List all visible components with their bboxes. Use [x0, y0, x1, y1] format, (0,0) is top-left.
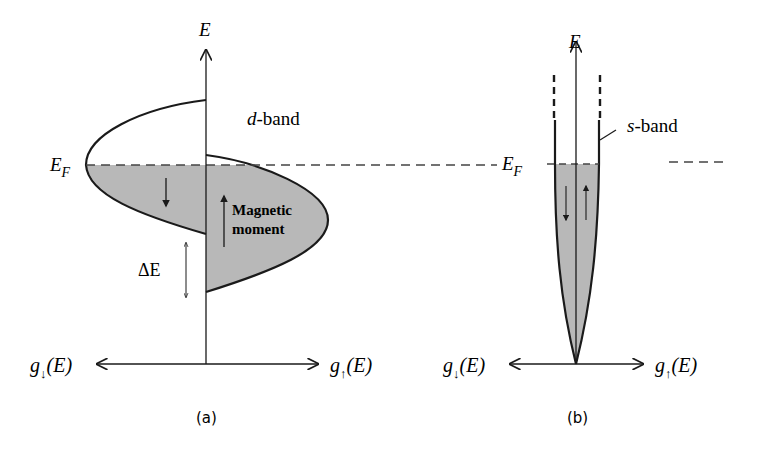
magnetic-moment-label-line2: moment	[232, 221, 285, 237]
delta-e-label: ΔE	[138, 260, 161, 280]
fermi-level-label-a: EF	[49, 154, 71, 180]
s-band-pointer-line	[600, 130, 616, 140]
panel-b: E EF s-band g↓(E) g↑(E) (b)	[443, 31, 724, 427]
energy-axis-label-b: E	[568, 31, 581, 52]
spin-down-filled-region	[86, 165, 206, 234]
caption-b: (b)	[567, 409, 588, 427]
band-diagram: E EF d-band Magnetic moment ΔE g↓(E) g↑(…	[0, 0, 757, 454]
d-band-label: d-band	[247, 108, 300, 129]
g-up-label-b: g↑(E)	[655, 354, 697, 381]
g-down-label-b: g↓(E)	[443, 354, 485, 381]
caption-a: (a)	[196, 409, 217, 427]
fermi-level-label-b: EF	[501, 153, 523, 179]
magnetic-moment-label-line1: Magnetic	[232, 202, 292, 218]
s-band-filled-region	[555, 164, 599, 364]
g-down-label-a: g↓(E)	[30, 354, 72, 381]
panel-a: E EF d-band Magnetic moment ΔE g↓(E) g↑(…	[30, 19, 497, 427]
energy-axis-label-a: E	[198, 19, 211, 40]
s-band-label: s-band	[627, 115, 678, 136]
g-up-label-a: g↑(E)	[330, 354, 372, 381]
